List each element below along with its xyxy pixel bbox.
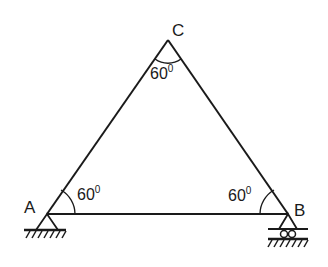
pin-support-a [24,214,66,238]
angle-label-b: 600 [228,185,252,204]
roller-wheel-left [281,231,288,238]
ground-hatch-a [26,231,66,238]
angle-label-a: 600 [77,184,101,203]
node-label-c: C [172,21,184,40]
ground-hatch-b [268,240,308,247]
node-label-a: A [24,198,36,217]
truss-diagram: C A B 600 600 600 [0,0,328,267]
node-label-b: B [294,201,305,220]
angle-arc-b [260,190,274,214]
angle-arc-a [61,190,75,214]
roller-wheel-right [289,231,296,238]
diagram-svg: C A B 600 600 600 [0,0,328,267]
angle-label-c: 600 [150,63,174,82]
